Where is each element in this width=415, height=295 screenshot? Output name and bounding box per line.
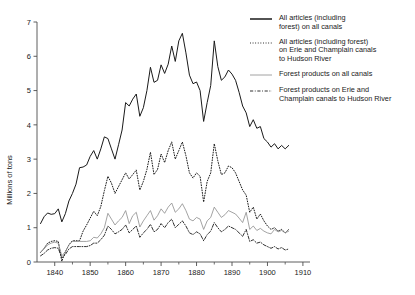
chart-legend: All articles (including forest) on all c… [250, 14, 415, 110]
y-axis-title: Millions of tons [5, 155, 14, 205]
y-tick-label: 7 [27, 18, 31, 27]
y-tick-label: 1 [27, 223, 31, 232]
series-line-2 [41, 142, 289, 261]
legend-label: All articles (including forest) on Erie … [279, 38, 376, 64]
x-tick-label: 1850 [82, 268, 99, 277]
series-line-3 [41, 203, 289, 256]
legend-label: Forest products on Erie and Champlain ca… [279, 86, 391, 103]
y-tick-label: 3 [27, 155, 31, 164]
x-axis-ticks: 18401850186018701880189019001910 [46, 262, 311, 277]
legend-label: All articles (including forest) on all c… [279, 14, 346, 31]
legend-line-swatch [250, 38, 272, 48]
y-tick-label: 6 [27, 52, 31, 61]
x-tick-label: 1840 [46, 268, 63, 277]
y-tick-label: 0 [27, 258, 31, 267]
legend-line-swatch [250, 70, 272, 80]
chart-screenshot: 01234567 1840185018601870188018901900191… [0, 0, 415, 295]
legend-line-swatch [250, 86, 272, 96]
x-tick-label: 1910 [295, 268, 312, 277]
legend-line-swatch [250, 14, 272, 24]
y-tick-label: 5 [27, 86, 31, 95]
x-tick-label: 1890 [224, 268, 241, 277]
legend-entry-3[interactable]: Forest products on all canals [250, 70, 415, 80]
x-tick-label: 1860 [117, 268, 134, 277]
legend-entry-4[interactable]: Forest products on Erie and Champlain ca… [250, 86, 415, 103]
y-axis-ticks: 01234567 [27, 18, 37, 267]
y-tick-label: 4 [27, 121, 31, 130]
y-tick-label: 2 [27, 189, 31, 198]
legend-label: Forest products on all canals [279, 70, 372, 79]
legend-entry-2[interactable]: All articles (including forest) on Erie … [250, 38, 415, 64]
series-line-4 [41, 219, 289, 258]
x-tick-label: 1900 [259, 268, 276, 277]
x-tick-label: 1870 [153, 268, 170, 277]
x-tick-label: 1880 [188, 268, 205, 277]
legend-entry-1[interactable]: All articles (including forest) on all c… [250, 14, 415, 31]
